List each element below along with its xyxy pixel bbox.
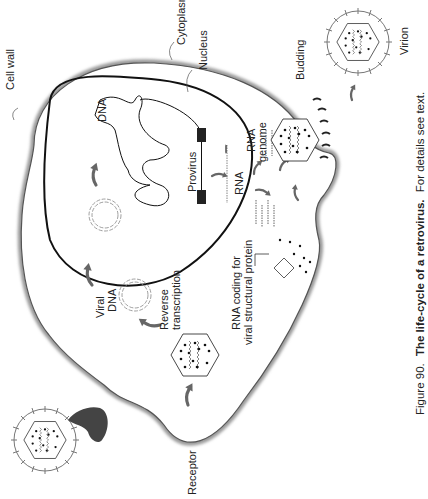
label-virion: Virion — [398, 27, 410, 55]
attaching-virion — [11, 406, 79, 474]
label-cell-wall: Cell wall — [4, 49, 16, 90]
label-cytoplasm: Cytoplasm — [175, 0, 187, 45]
caption-suffix: For details see text. — [414, 92, 426, 192]
label-viral-dna-1: Viral — [94, 296, 106, 318]
label-reverse-transcription-2: transcription — [170, 270, 182, 330]
label-dna: DNA — [96, 98, 108, 122]
label-provirus: Provirus — [186, 151, 198, 192]
retrovirus-lifecycle-diagram: Cell wall Cytoplasm Nucleus DNA Provirus… — [0, 0, 428, 499]
label-rna-coding-2: viral structural protein — [242, 240, 254, 345]
label-rna-coding-1: RNA coding for — [230, 256, 242, 330]
label-reverse-transcription-1: Reverse — [158, 289, 170, 330]
label-receptor: Receptor — [186, 450, 198, 495]
label-rna-genome-2: genome — [256, 122, 268, 162]
label-nucleus: Nucleus — [197, 30, 209, 70]
caption-prefix: Figure 90. — [414, 363, 426, 415]
label-budding: Budding — [294, 40, 306, 80]
caption-title: The life-cycle of a retrovirus. — [414, 199, 426, 356]
label-viral-dna-2: DNA — [106, 288, 118, 312]
figure-caption: Figure 90. The life-cycle of a retroviru… — [414, 92, 426, 415]
label-rna: RNA — [233, 171, 245, 195]
released-virion — [324, 8, 392, 76]
